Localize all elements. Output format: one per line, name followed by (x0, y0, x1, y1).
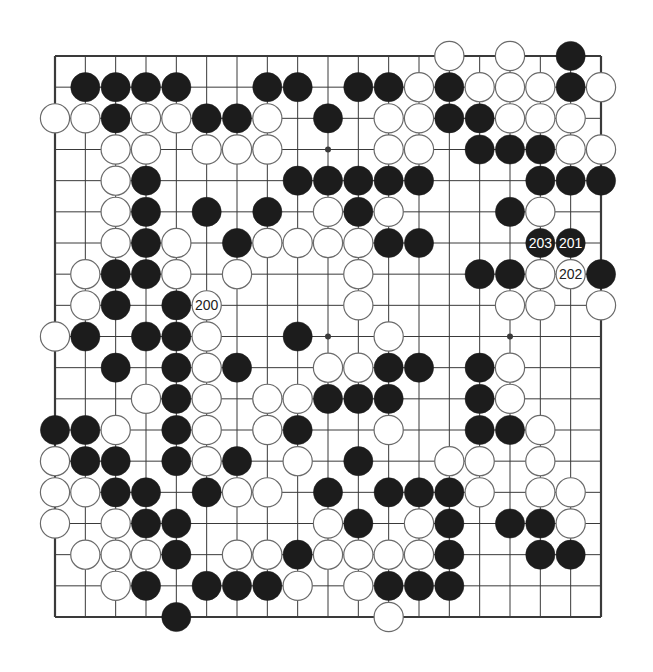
star-point (325, 147, 331, 153)
black-stone (404, 571, 433, 600)
white-stone-icon (313, 509, 342, 538)
white-stone-icon (313, 353, 342, 382)
black-stone (101, 73, 130, 102)
black-stone-icon (526, 509, 555, 538)
white-stone (374, 322, 403, 351)
black-stone (162, 540, 191, 569)
white-stone-icon (253, 228, 282, 257)
black-stone-icon (495, 197, 524, 226)
black-stone-icon (526, 166, 555, 195)
white-stone-icon (192, 135, 221, 164)
black-stone-icon (313, 384, 342, 413)
white-stone-icon (101, 540, 130, 569)
white-stone-icon (344, 571, 373, 600)
white-stone (162, 260, 191, 289)
black-stone-icon (374, 384, 403, 413)
white-stone-icon (374, 540, 403, 569)
black-stone (131, 322, 160, 351)
white-stone (344, 540, 373, 569)
black-stone (435, 540, 464, 569)
black-stone (465, 104, 494, 133)
white-stone-icon (526, 104, 555, 133)
black-stone (222, 571, 251, 600)
white-stone (222, 540, 251, 569)
black-stone-icon (192, 104, 221, 133)
white-stone (253, 540, 282, 569)
black-stone-icon (101, 478, 130, 507)
black-stone-icon (374, 73, 403, 102)
white-stone-icon (526, 478, 555, 507)
white-stone (71, 104, 100, 133)
black-stone (435, 509, 464, 538)
white-stone-icon (192, 322, 221, 351)
white-stone (131, 135, 160, 164)
white-stone (556, 509, 585, 538)
white-stone (101, 509, 130, 538)
white-stone (344, 228, 373, 257)
black-stone (435, 571, 464, 600)
white-stone-icon (556, 104, 585, 133)
white-stone-icon (162, 260, 191, 289)
white-stone-icon (344, 291, 373, 320)
white-stone (192, 135, 221, 164)
white-stone-icon (495, 41, 524, 70)
white-stone-icon (556, 509, 585, 538)
white-stone-icon (495, 104, 524, 133)
black-stone-icon (435, 104, 464, 133)
white-stone (526, 291, 555, 320)
white-stone (192, 322, 221, 351)
black-stone (131, 73, 160, 102)
white-stone-icon (465, 73, 494, 102)
black-stone (556, 540, 585, 569)
white-stone-icon (131, 135, 160, 164)
black-stone (222, 104, 251, 133)
black-stone (101, 104, 130, 133)
black-stone-icon (101, 260, 130, 289)
black-stone-icon (131, 166, 160, 195)
white-stone-icon (435, 447, 464, 476)
white-stone (40, 478, 69, 507)
black-stone-icon (404, 353, 433, 382)
white-stone (101, 197, 130, 226)
white-stone-icon (101, 509, 130, 538)
black-stone-icon (435, 571, 464, 600)
black-stone-icon (222, 104, 251, 133)
white-stone (344, 260, 373, 289)
black-stone-icon (556, 73, 585, 102)
white-stone (131, 540, 160, 569)
white-stone (131, 384, 160, 413)
black-stone-icon (283, 73, 312, 102)
black-stone-icon (162, 73, 191, 102)
black-stone-icon (131, 509, 160, 538)
white-stone (101, 571, 130, 600)
black-stone-icon (374, 571, 403, 600)
white-stone-icon (374, 415, 403, 444)
white-stone-icon (404, 135, 433, 164)
white-stone-icon (253, 540, 282, 569)
black-stone-icon (344, 447, 373, 476)
black-stone-icon (374, 228, 403, 257)
white-stone: 202 (556, 260, 585, 289)
white-stone-icon (374, 135, 403, 164)
white-stone-icon (404, 73, 433, 102)
white-stone (40, 104, 69, 133)
black-stone-icon (283, 415, 312, 444)
white-stone-icon (40, 509, 69, 538)
black-stone-icon (404, 228, 433, 257)
black-stone (465, 384, 494, 413)
black-stone (131, 166, 160, 195)
white-stone (526, 415, 555, 444)
white-stone (344, 571, 373, 600)
black-stone (222, 228, 251, 257)
move-number-label: 200 (195, 297, 219, 313)
white-stone-icon (192, 353, 221, 382)
black-stone-icon (374, 353, 403, 382)
black-stone (162, 353, 191, 382)
black-stone (101, 447, 130, 476)
black-stone-icon (495, 415, 524, 444)
black-stone-icon (162, 353, 191, 382)
white-stone (435, 41, 464, 70)
white-stone-icon (586, 73, 615, 102)
white-stone (313, 228, 342, 257)
white-stone-icon (40, 478, 69, 507)
